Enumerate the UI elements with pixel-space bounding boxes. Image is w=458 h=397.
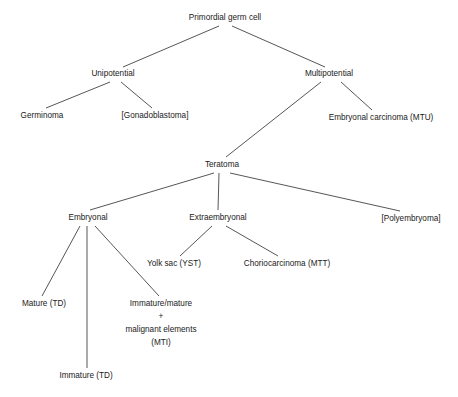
- node-layer: Primordial germ cellUnipotentialMultipot…: [21, 13, 441, 380]
- node-label-mature-td: Mature (TD): [22, 299, 66, 308]
- edge-unipotential-gonadoblastoma: [121, 82, 152, 108]
- node-label-mti-block: Immature/mature+malignant elements(MTI): [126, 299, 197, 347]
- node-label-mti-block-line-2: +: [159, 312, 164, 321]
- edge-multipotential-embryonalca: [341, 82, 372, 110]
- edge-primordial-unipotential: [123, 26, 219, 67]
- node-label-immature-td: Immature (TD): [59, 371, 112, 380]
- node-label-mti-block-line-3: malignant elements: [126, 325, 197, 334]
- node-label-teratoma: Teratoma: [205, 160, 240, 169]
- edge-teratoma-embryonal: [90, 173, 214, 210]
- node-label-mti-block-line-1: Immature/mature: [130, 299, 193, 308]
- edge-embryonal-mature: [42, 226, 80, 296]
- diagram-canvas: Primordial germ cellUnipotentialMultipot…: [0, 0, 458, 397]
- node-label-mti-block-line-4: (MTI): [151, 338, 171, 347]
- node-label-multipotential: Multipotential: [305, 69, 353, 78]
- node-label-extraembryonal: Extraembryonal: [189, 213, 247, 222]
- edge-extraembryonal-yolksac: [180, 226, 212, 256]
- node-label-gonadoblastoma: [Gonadoblastoma]: [122, 111, 189, 120]
- node-label-germinoma: Germinoma: [21, 111, 64, 120]
- node-label-primordial: Primordial germ cell: [189, 13, 262, 22]
- edge-teratoma-extraembryonal: [218, 173, 219, 210]
- node-label-polyembryoma: [Polyembryoma]: [381, 214, 440, 223]
- node-label-unipotential: Unipotential: [91, 69, 134, 78]
- edge-teratoma-polyembryoma: [230, 173, 400, 211]
- edge-multipotential-teratoma: [226, 82, 321, 157]
- edge-primordial-multipotential: [232, 26, 325, 67]
- edge-unipotential-germinoma: [46, 82, 110, 108]
- germ-cell-tumour-diagram: Primordial germ cellUnipotentialMultipot…: [0, 0, 458, 397]
- node-label-choriocarcinoma: Choriocarcinoma (MTT): [244, 259, 331, 268]
- node-label-yolk-sac: Yolk sac (YST): [147, 259, 201, 268]
- node-label-embryonal-ca: Embryonal carcinoma (MTU): [329, 113, 434, 122]
- edge-extraembryonal-chorio: [226, 226, 278, 256]
- node-label-embryonal: Embryonal: [68, 213, 107, 222]
